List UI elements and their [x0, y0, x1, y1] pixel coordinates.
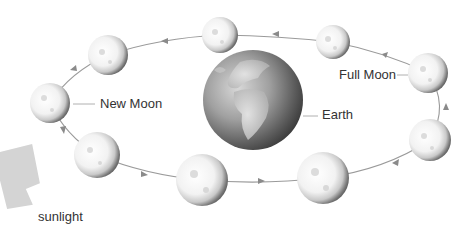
moon [297, 152, 349, 204]
moon [316, 25, 350, 59]
arrow-icon [161, 38, 168, 44]
moon [176, 154, 228, 206]
arrow-icon [70, 65, 77, 71]
full-moon-label: Full Moon [339, 67, 396, 82]
new-moon [30, 83, 70, 123]
moon [202, 17, 238, 53]
sunlight-label: sunlight [38, 209, 83, 224]
arrow-icon [60, 126, 66, 134]
arrow-icon [272, 31, 279, 37]
full-moon [408, 53, 448, 93]
sunlight-arrow-icon [0, 144, 46, 211]
arrow-icon [258, 178, 265, 184]
new-moon-label: New Moon [100, 96, 162, 111]
moon [74, 132, 120, 178]
arrow-icon [443, 103, 449, 110]
moon [88, 35, 128, 75]
arrow-icon [141, 171, 148, 177]
earth-label: Earth [322, 107, 353, 122]
lunar-phase-diagram [0, 0, 470, 235]
earth-globe [203, 50, 303, 150]
moon [409, 119, 451, 161]
